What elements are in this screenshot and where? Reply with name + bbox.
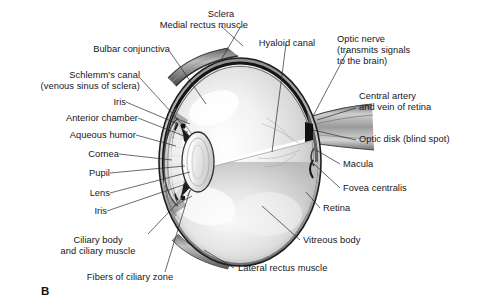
- lens-shape: [182, 132, 214, 192]
- label-iris-upper: Iris: [0, 97, 126, 108]
- label-schlemms-canal-line2: (venous sinus of sclera): [0, 81, 140, 92]
- eye-anatomy-figure: Sclera Hyaloid canal Medial rectus muscl…: [0, 0, 479, 306]
- label-central-artery-line2: and vein of retina: [359, 102, 431, 113]
- label-ciliary-body-line1: Ciliary body: [48, 235, 148, 246]
- label-sclera: Sclera: [176, 9, 266, 20]
- label-optic-nerve-line2: (transmits signals: [337, 45, 410, 56]
- optic-disk-shape: [305, 122, 313, 142]
- label-retina: Retina: [323, 203, 350, 214]
- label-iris-lower: Iris: [0, 206, 107, 217]
- label-vitreous-body: Vitreous body: [303, 235, 360, 246]
- label-medial-rectus-muscle: Medial rectus muscle: [88, 20, 248, 31]
- label-macula: Macula: [343, 159, 373, 170]
- label-fibers-of-ciliary-zone: Fibers of ciliary zone: [60, 272, 200, 283]
- label-aqueous-humor: Aqueous humor: [0, 130, 136, 141]
- label-pupil: Pupil: [0, 168, 110, 179]
- label-lateral-rectus-muscle: Lateral rectus muscle: [238, 263, 327, 274]
- label-lens: Lens: [0, 188, 110, 199]
- label-central-artery-line1: Central artery: [359, 91, 416, 102]
- label-optic-disk: Optic disk (blind spot): [359, 134, 450, 145]
- label-optic-nerve-line3: to the brain): [337, 56, 387, 67]
- label-optic-nerve-line1: Optic nerve: [337, 34, 385, 45]
- label-hyaloid-canal: Hyaloid canal: [240, 38, 334, 49]
- label-cornea: Cornea: [0, 149, 119, 160]
- label-schlemms-canal-line1: Schlemm's canal: [0, 70, 140, 81]
- label-ciliary-body-line2: and ciliary muscle: [34, 246, 162, 257]
- label-fovea-centralis: Fovea centralis: [343, 183, 407, 194]
- panel-label-b: B: [41, 285, 50, 297]
- label-anterior-chamber: Anterior chamber: [0, 113, 138, 124]
- label-bulbar-conjunctiva: Bulbar conjunctiva: [10, 44, 170, 55]
